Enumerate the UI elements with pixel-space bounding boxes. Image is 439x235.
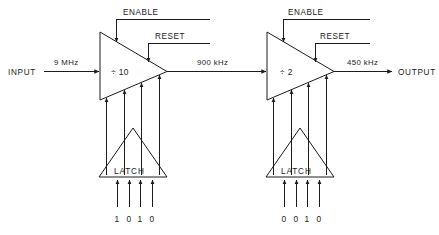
divider-1-ratio-label: ÷ 10 [111,67,129,77]
latch-1-bit-label-1: 1 [115,214,120,224]
divider-2-ratio-label: ÷ 2 [280,67,293,77]
stage-1-enable-label: ENABLE [123,8,159,17]
stage-2-group: ÷ 2 ENABLE RESET LATCH 0 0 1 0 [266,8,370,224]
latch-2-bit-label-2: 0 [294,214,299,224]
input-terminal-label: INPUT [8,68,36,77]
latch-2-bit-label-3: 1 [305,214,310,224]
stage-1-reset-label: RESET [155,32,185,41]
latch-2-bit-label-1: 0 [282,214,287,224]
stage-2-enable-label: ENABLE [288,8,324,17]
divider-2-symbol [267,32,334,100]
input-frequency-label: 9 MHz [54,58,79,67]
output-frequency-label: 450 kHz [347,58,378,67]
latch-1-bit-label-2: 0 [127,214,132,224]
latch-2-label: LATCH [281,167,312,176]
latch-1-bit-label-4: 0 [150,214,155,224]
stage-1-group: ÷ 10 ENABLE RESET LATCH 1 0 1 0 [99,8,210,224]
latch-2-bit-label-4: 0 [317,214,322,224]
interstage-frequency-label: 900 kHz [197,58,228,67]
output-terminal-label: OUTPUT [398,68,436,77]
latch-1-label: LATCH [114,167,145,176]
block-diagram-canvas: INPUT 9 MHz ÷ 10 ENABLE RESET LATCH 1 0 … [0,0,439,235]
latch-1-bit-label-3: 1 [138,214,143,224]
stage-2-reset-label: RESET [320,32,350,41]
frequency-divider-diagram: INPUT 9 MHz ÷ 10 ENABLE RESET LATCH 1 0 … [0,0,439,235]
